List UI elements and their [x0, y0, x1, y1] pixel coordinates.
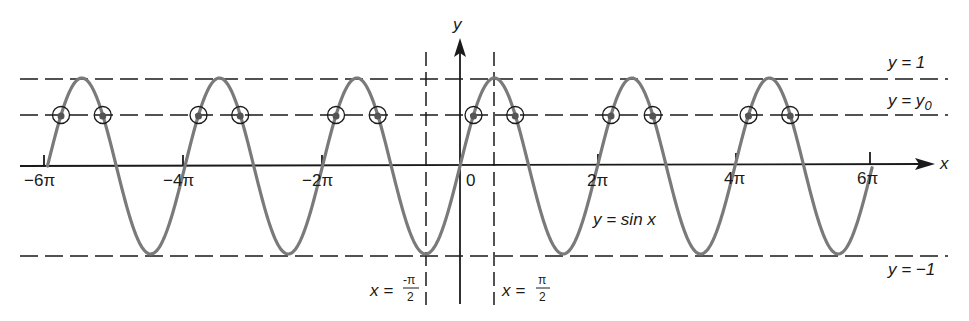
x-axis-label: x	[939, 154, 949, 173]
label-y-equals-1: y = 1	[887, 53, 925, 72]
svg-text:x =: x =	[369, 281, 393, 300]
label-x-minus-pi-over-2: x = -π 2	[369, 273, 419, 304]
intersection-dot	[374, 113, 381, 120]
origin-label: 0	[466, 171, 475, 190]
label-x-pi-over-2: x = π 2	[501, 273, 550, 304]
curve-label: y = sin x	[592, 210, 656, 229]
intersection-dot	[787, 113, 794, 120]
label-y-equals-y0: y = y0	[887, 91, 932, 113]
sine-diagram: −6π −4π −2π 2π 4π 6π 0 y x y = 1 y = y0 …	[0, 0, 969, 321]
tick-label-4pi: 4π	[724, 169, 745, 188]
tick-label-2pi: 2π	[587, 171, 608, 190]
intersection-dot	[649, 113, 656, 120]
tick-label-minus-4pi: −4π	[163, 171, 194, 190]
x-axis	[20, 164, 925, 166]
intersection-dot	[745, 113, 752, 120]
intersection-dot	[237, 113, 244, 120]
svg-text:2: 2	[539, 290, 546, 304]
intersection-dot	[512, 113, 519, 120]
tick-label-6pi: 6π	[857, 169, 878, 188]
intersection-dot	[333, 113, 340, 120]
svg-text:-π: -π	[403, 273, 415, 287]
svg-text:x =: x =	[501, 281, 525, 300]
label-y-equals-minus-1: y = −1	[887, 260, 935, 279]
tick-label-minus-2pi: −2π	[302, 171, 333, 190]
svg-text:π: π	[538, 273, 546, 287]
intersection-dot	[470, 113, 477, 120]
intersection-dot	[608, 113, 615, 120]
intersection-dot	[195, 113, 202, 120]
intersection-dot	[58, 113, 65, 120]
intersection-dot	[99, 113, 106, 120]
tick-label-minus-6pi: −6π	[24, 171, 55, 190]
svg-text:2: 2	[407, 290, 414, 304]
x-tick-labels: −6π −4π −2π 2π 4π 6π	[24, 169, 878, 190]
y-axis-label: y	[452, 15, 463, 34]
